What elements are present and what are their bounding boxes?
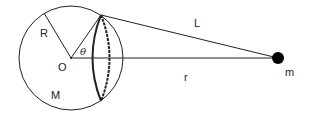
label-angle: θ [80, 46, 86, 57]
center-point [70, 57, 72, 59]
label-center-distance: r [184, 71, 188, 83]
gravitation-diagram: R O M θ L r m [0, 0, 311, 114]
label-sphere-mass: M [51, 89, 60, 101]
slant-distance-line [101, 15, 278, 58]
point-mass-dot [272, 52, 284, 64]
radius-line [44, 13, 71, 58]
label-point-mass: m [285, 66, 294, 78]
label-radius: R [40, 27, 48, 39]
label-slant-distance: L [194, 17, 200, 29]
label-center: O [58, 61, 67, 73]
